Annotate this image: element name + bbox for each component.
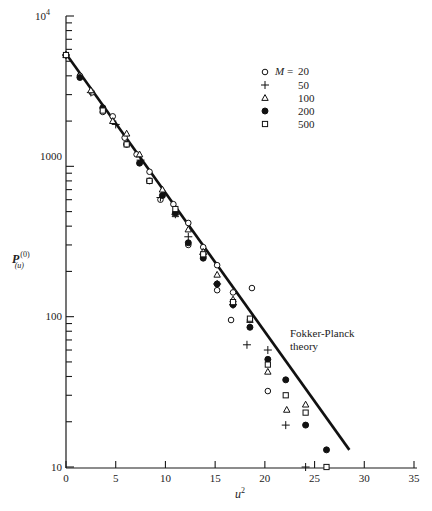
x-tick-label: 20 (259, 472, 271, 484)
data-point-m200 (324, 447, 330, 453)
y-tick-label-1000: 1000 (40, 150, 63, 162)
data-point-m20 (214, 262, 220, 268)
x-tick-label: 25 (309, 472, 321, 484)
y-tick-label-10: 10 (51, 461, 63, 473)
legend-variable: M (274, 65, 285, 77)
data-point-m100 (123, 130, 129, 136)
data-point-m500 (201, 252, 206, 257)
legend-equals: = (287, 65, 293, 77)
data-point-m500 (324, 464, 329, 469)
x-axis-ticks (66, 461, 414, 468)
legend-marker-filled-circle-icon (262, 108, 268, 114)
data-point-m50 (282, 421, 290, 429)
legend-marker-open-square-icon (262, 121, 267, 126)
legend-label-50: 50 (298, 79, 310, 91)
legend-label-200: 200 (298, 105, 315, 117)
data-points (62, 51, 330, 471)
legend-marker-open-circle-icon (262, 69, 268, 75)
data-point-m100 (265, 368, 271, 374)
data-point-m20 (147, 169, 153, 175)
data-point-m500 (124, 142, 129, 147)
data-point-m500 (147, 178, 152, 183)
data-point-m500 (173, 206, 178, 211)
data-point-m500 (283, 393, 288, 398)
data-point-m200 (137, 160, 143, 166)
data-point-m200 (247, 324, 253, 330)
data-point-m20 (230, 290, 236, 296)
y-tick-label-10000: 104 (35, 8, 50, 22)
x-tick-label: 0 (63, 472, 69, 484)
data-point-m200 (185, 240, 191, 246)
data-point-m50 (302, 463, 310, 471)
data-point-m20 (185, 220, 191, 226)
data-point-m500 (63, 52, 68, 57)
data-point-m500 (265, 362, 270, 367)
legend-label-500: 500 (298, 118, 315, 130)
x-tick-label: 10 (160, 472, 172, 484)
data-point-m200 (283, 377, 289, 383)
data-point-m200 (77, 74, 83, 80)
data-point-m20 (265, 388, 271, 394)
x-tick-label: 15 (210, 472, 222, 484)
data-point-m200 (214, 281, 220, 287)
x-tick-label: 30 (359, 472, 371, 484)
legend-marker-plus-icon (261, 81, 269, 89)
legend-marker-open-triangle-icon (262, 95, 268, 101)
legend-markers (261, 69, 269, 126)
legend-label-100: 100 (298, 92, 315, 104)
data-point-m100 (214, 271, 220, 277)
chart-figure: 104 1000 100 10 05101520253035 u2 P(0)(u… (0, 0, 432, 511)
data-point-m200 (159, 192, 165, 198)
x-axis-tick-labels: 05101520253035 (63, 472, 420, 484)
x-tick-label: 35 (409, 472, 421, 484)
x-tick-label: 5 (113, 472, 119, 484)
y-tick-label-100: 100 (46, 310, 63, 322)
y-axis-title: P(0)(u) (12, 250, 30, 270)
data-point-m500 (247, 316, 252, 321)
data-point-m20 (249, 285, 255, 291)
data-point-m500 (100, 108, 105, 113)
data-point-m50 (243, 341, 251, 349)
data-point-m500 (303, 410, 308, 415)
y-axis-ticks (66, 16, 74, 467)
data-point-m50 (264, 346, 272, 354)
data-point-m100 (284, 406, 290, 412)
data-point-m200 (265, 356, 271, 362)
data-point-m500 (230, 299, 235, 304)
data-point-m20 (228, 317, 234, 323)
theory-annotation-line1: Fokker-Planck (290, 327, 355, 339)
data-point-m200 (303, 422, 309, 428)
data-point-m100 (302, 401, 308, 407)
legend: M = 20 50 100 200 500 (261, 65, 315, 130)
x-axis-title: u2 (235, 486, 245, 501)
theory-annotation-line2: theory (290, 340, 319, 352)
legend-label-20: 20 (298, 65, 310, 77)
data-point-m20 (214, 287, 220, 293)
